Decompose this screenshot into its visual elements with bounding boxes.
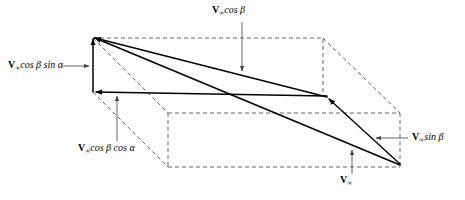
edge-right-top-diagonal [323, 38, 400, 113]
vector-v-cos-beta-cos-alpha [96, 92, 327, 96]
label-v-sin-beta-expr: sin β [424, 131, 443, 142]
vector-v-sin-beta [329, 99, 400, 164]
vector-group [93, 38, 400, 165]
label-v-cos-beta-sin-alpha-expr: cos β sin α [20, 59, 63, 70]
label-v-cos-beta-sin-alpha: V∞cos β sin α [8, 60, 63, 72]
label-v-cos-beta-cos-alpha-expr: cos β cos α [90, 142, 134, 153]
label-v-cos-beta: V∞cos β [212, 5, 245, 17]
vector-v-cos-beta [95, 38, 327, 97]
label-v-cos-beta-cos-alpha: V∞cos β cos α [78, 143, 135, 155]
box-dashed-edges [93, 38, 400, 167]
vector-decomposition-figure: V∞cos β V∞cos β sin α V∞cos β cos α V∞si… [0, 0, 465, 200]
label-v-infinity: V∞ [340, 175, 352, 187]
label-v-sin-beta: V∞sin β [412, 132, 443, 144]
vector-v-infinity [95, 38, 400, 165]
edge-left-top-diagonal [93, 38, 168, 113]
diagram-canvas [0, 0, 465, 200]
label-v-cos-beta-expr: cos β [224, 4, 245, 15]
label-v-infinity-subscript: ∞ [347, 179, 352, 187]
edge-left-bottom-diagonal [93, 92, 168, 167]
